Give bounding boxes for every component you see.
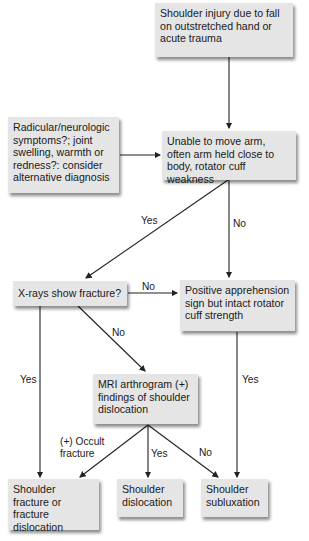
edge-label-unable-to-apprehension: No bbox=[233, 218, 246, 230]
edge-label-unable-to-xray: Yes bbox=[141, 215, 158, 227]
edge-label-apprehension-to-subluxation: Yes bbox=[242, 374, 259, 386]
edge-label-xray-to-fracture: Yes bbox=[20, 374, 37, 386]
node-apprehension: Positive apprehension sign but intact ro… bbox=[180, 280, 295, 331]
node-subluxation: Shoulder subluxation bbox=[201, 479, 268, 517]
node-fracture: Shoulder fracture or fracture dislocatio… bbox=[8, 479, 99, 530]
node-exclusion: Radicular/neurologic symptoms?; joint sw… bbox=[8, 117, 119, 193]
node-unable: Unable to move arm, often arm held close… bbox=[162, 131, 296, 180]
node-start: Shoulder injury due to fall on outstretc… bbox=[155, 3, 293, 57]
edge-label-xray-to-mri: No bbox=[112, 327, 125, 339]
edge-label-xray-to-apprehension: No bbox=[142, 281, 155, 293]
edge-label-mri-to-fracture: (+) Occult fracture bbox=[60, 436, 120, 460]
edge-label-mri-to-subluxation: No bbox=[199, 447, 212, 459]
node-xray: X-rays show fracture? bbox=[13, 281, 127, 306]
edge-label-mri-to-dislocation: Yes bbox=[151, 448, 168, 460]
node-mri: MRI arthrogram (+) findings of shoulder … bbox=[93, 374, 198, 424]
arrow-unable-to-xray bbox=[86, 180, 228, 278]
node-dislocation: Shoulder dislocation bbox=[117, 479, 183, 517]
